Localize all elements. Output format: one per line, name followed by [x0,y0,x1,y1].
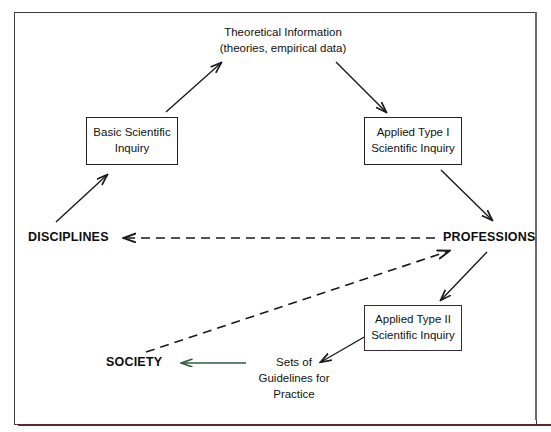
applied-type-1-box[interactable]: Applied Type I Scientific Inquiry [364,117,462,165]
theoretical-information-line-2: (theories, empirical data) [213,40,353,56]
frame-bottom-edge-accent [18,424,551,426]
theoretical-information-label: Theoretical Information (theories, empir… [213,24,353,56]
basic-inquiry-line-2: Inquiry [115,141,150,157]
guidelines-line-3: Practice [246,386,342,402]
applied-type-1-line-1: Applied Type I [377,125,450,141]
diagram-canvas: Theoretical Information (theories, empir… [0,0,551,432]
guidelines-line-1: Sets of [246,354,342,370]
applied-type-2-line-1: Applied Type II [375,312,451,328]
applied-type-2-box[interactable]: Applied Type II Scientific Inquiry [364,305,462,351]
applied-type-1-line-2: Scientific Inquiry [371,141,455,157]
theoretical-information-line-1: Theoretical Information [213,24,353,40]
basic-scientific-inquiry-box[interactable]: Basic Scientific Inquiry [86,117,178,165]
disciplines-label[interactable]: DISCIPLINES [28,230,109,244]
society-label[interactable]: SOCIETY [106,355,162,369]
guidelines-line-2: Guidelines for [246,370,342,386]
frame-right-edge-accent [535,12,537,420]
guidelines-label: Sets of Guidelines for Practice [246,354,342,402]
applied-type-2-line-2: Scientific Inquiry [371,328,455,344]
professions-label[interactable]: PROFESSIONS [443,230,536,244]
basic-inquiry-line-1: Basic Scientific [93,125,170,141]
